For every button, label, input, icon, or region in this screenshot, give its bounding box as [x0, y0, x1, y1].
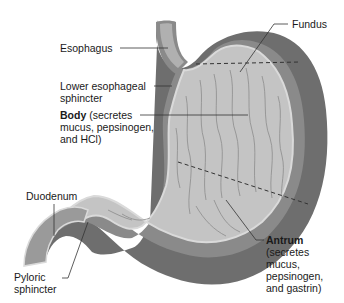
body-desc-3: and HCl)	[60, 133, 154, 145]
les-line-2: sphincter	[60, 92, 146, 104]
body-title: Body	[60, 109, 86, 121]
label-duodenum: Duodenum	[26, 190, 77, 202]
antrum-desc-2: (secretes	[266, 246, 323, 258]
label-fundus: Fundus	[292, 18, 327, 30]
body-desc-2: mucus, pepsinogen,	[60, 121, 154, 133]
label-body: Body (secretes mucus, pepsinogen, and HC…	[60, 109, 154, 145]
pyloric-line-1: Pyloric	[14, 271, 57, 283]
pyloric-line-2: sphincter	[14, 283, 57, 295]
label-antrum: Antrum (secretes mucus, pepsinogen, and …	[266, 234, 323, 294]
label-esophagus: Esophagus	[60, 42, 113, 54]
les-line-1: Lower esophageal	[60, 80, 146, 92]
antrum-desc-3: mucus,	[266, 258, 323, 270]
antrum-title: Antrum	[266, 234, 303, 246]
antrum-desc-5: and gastrin)	[266, 282, 323, 294]
label-pyloric-sphincter: Pyloric sphincter	[14, 271, 57, 295]
label-lower-esophageal-sphincter: Lower esophageal sphincter	[60, 80, 146, 104]
body-desc-1: (secretes	[86, 109, 132, 121]
antrum-desc-4: pepsinogen,	[266, 270, 323, 282]
